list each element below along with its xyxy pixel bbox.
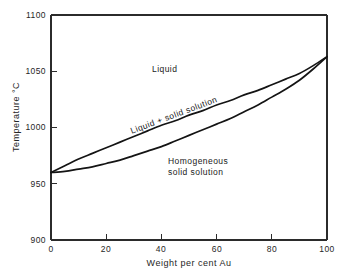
- region-label-homogeneous-line1: Homogeneous: [168, 156, 228, 167]
- y-tick-label-1000: 1000: [8, 122, 46, 132]
- plot-canvas: [0, 0, 347, 278]
- phase-diagram-figure: Temperature °C Weight per cent Au 1100 1…: [0, 0, 347, 278]
- region-label-homogeneous-solid-solution: Homogeneous solid solution: [168, 156, 228, 178]
- y-tick-label-1050: 1050: [8, 66, 46, 76]
- axes-frame: [51, 15, 327, 240]
- y-tick-label-1100: 1100: [8, 10, 46, 20]
- x-axis-title: Weight per cent Au: [51, 258, 327, 268]
- x-tick-label-60: 60: [203, 244, 231, 254]
- x-tick-label-20: 20: [92, 244, 120, 254]
- region-label-liquid: Liquid: [152, 64, 177, 75]
- region-label-homogeneous-line2: solid solution: [168, 167, 228, 178]
- x-tick-label-100: 100: [313, 244, 341, 254]
- x-tick-label-0: 0: [37, 244, 65, 254]
- y-tick-label-950: 950: [8, 179, 46, 189]
- x-axis-ticks: [106, 234, 272, 240]
- x-tick-label-40: 40: [147, 244, 175, 254]
- y-axis-title: Temperature °C: [11, 65, 21, 169]
- y-axis-ticks: [51, 71, 57, 184]
- x-tick-label-80: 80: [258, 244, 286, 254]
